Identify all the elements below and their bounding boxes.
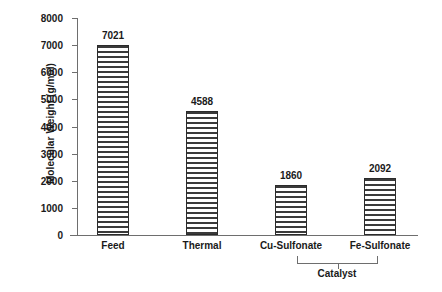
y-tick-label-1: 1000 — [41, 202, 63, 213]
y-tick-label-3: 3000 — [41, 148, 63, 159]
bar-value-feed: 7021 — [102, 30, 124, 41]
x-label-feed: Feed — [101, 240, 124, 251]
y-tick-5: 5000 — [72, 99, 77, 100]
y-tick-2: 2000 — [72, 181, 77, 182]
bar-cu-sulfonate — [275, 185, 307, 235]
y-tick-label-8: 8000 — [41, 13, 63, 24]
catalyst-group-label: Catalyst — [318, 268, 357, 279]
y-tick-label-0: 0 — [57, 230, 63, 241]
y-tick-1: 1000 — [72, 208, 77, 209]
y-tick-label-5: 5000 — [41, 94, 63, 105]
x-label-fe-sulfonate: Fe-Sulfonate — [350, 240, 411, 251]
x-axis-line — [70, 235, 418, 236]
y-tick-label-4: 4000 — [41, 121, 63, 132]
y-tick-7: 7000 — [72, 45, 77, 46]
bar-feed — [97, 45, 129, 235]
catalyst-group-bracket — [297, 256, 378, 264]
y-tick-label-6: 6000 — [41, 67, 63, 78]
y-tick-label-2: 2000 — [41, 175, 63, 186]
x-label-thermal: Thermal — [183, 240, 222, 251]
y-tick-6: 6000 — [72, 72, 77, 73]
y-tick-8: 8000 — [72, 18, 77, 19]
x-label-cu-sulfonate: Cu-Sulfonate — [260, 240, 322, 251]
bar-thermal — [186, 111, 218, 235]
bar-chart-figure: Molecular Weight (g/mol) 0 1000 2000 300… — [0, 0, 442, 292]
y-tick-4: 4000 — [72, 127, 77, 128]
y-tick-0: 0 — [72, 235, 77, 236]
bar-value-cu-sulfonate: 1860 — [280, 170, 302, 181]
bar-value-thermal: 4588 — [191, 96, 213, 107]
bar-fe-sulfonate — [364, 178, 396, 235]
plot-area: 0 1000 2000 3000 4000 5000 6000 7000 800… — [77, 18, 418, 235]
bar-value-fe-sulfonate: 2092 — [369, 163, 391, 174]
y-axis-line — [77, 18, 78, 235]
y-tick-3: 3000 — [72, 154, 77, 155]
y-tick-label-7: 7000 — [41, 40, 63, 51]
